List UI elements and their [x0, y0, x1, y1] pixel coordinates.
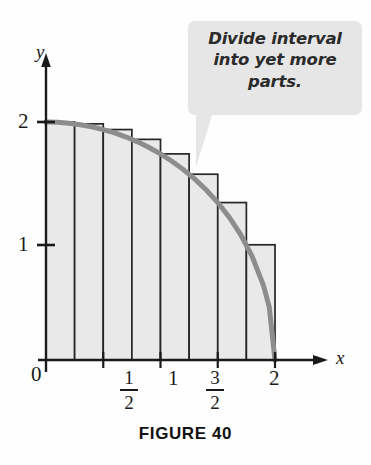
y-tick-label-2: 2 [18, 111, 29, 132]
y-axis-label: y [36, 42, 44, 61]
x-axis-label: x [336, 348, 344, 367]
fraction-denominator: 2 [203, 392, 227, 412]
riemann-rectangle [189, 174, 218, 360]
x-tick-label-2: 2 [269, 368, 280, 389]
callout-bubble: Divide interval into yet more parts. [188, 21, 362, 115]
fraction-denominator: 2 [117, 392, 141, 412]
callout-line-2: into yet more [213, 50, 336, 69]
callout-line-1: Divide interval [208, 29, 342, 48]
fraction-bar [206, 389, 224, 391]
x-tick-label-1: 1 [168, 368, 179, 389]
x-tick-label-three-halves: 3 2 [203, 368, 227, 412]
callout-pointer [196, 109, 214, 167]
riemann-rectangle [75, 124, 104, 360]
riemann-rectangle [218, 203, 247, 360]
riemann-rectangle [132, 139, 161, 360]
callout-text: Divide interval into yet more parts. [196, 28, 354, 92]
callout-line-3: parts. [248, 72, 302, 91]
origin-label: 0 [31, 364, 42, 385]
figure-container: Divide interval into yet more parts. y x… [0, 0, 371, 465]
y-tick-label-1: 1 [18, 234, 29, 255]
riemann-rectangle [103, 130, 132, 360]
riemann-rectangle [46, 122, 75, 360]
fraction-numerator: 1 [117, 368, 141, 388]
fraction-numerator: 3 [203, 368, 227, 388]
x-tick-label-half: 1 2 [117, 368, 141, 412]
riemann-rectangle [161, 154, 190, 360]
figure-caption: FIGURE 40 [0, 424, 371, 444]
riemann-rectangles [46, 122, 275, 360]
fraction-bar [120, 389, 138, 391]
